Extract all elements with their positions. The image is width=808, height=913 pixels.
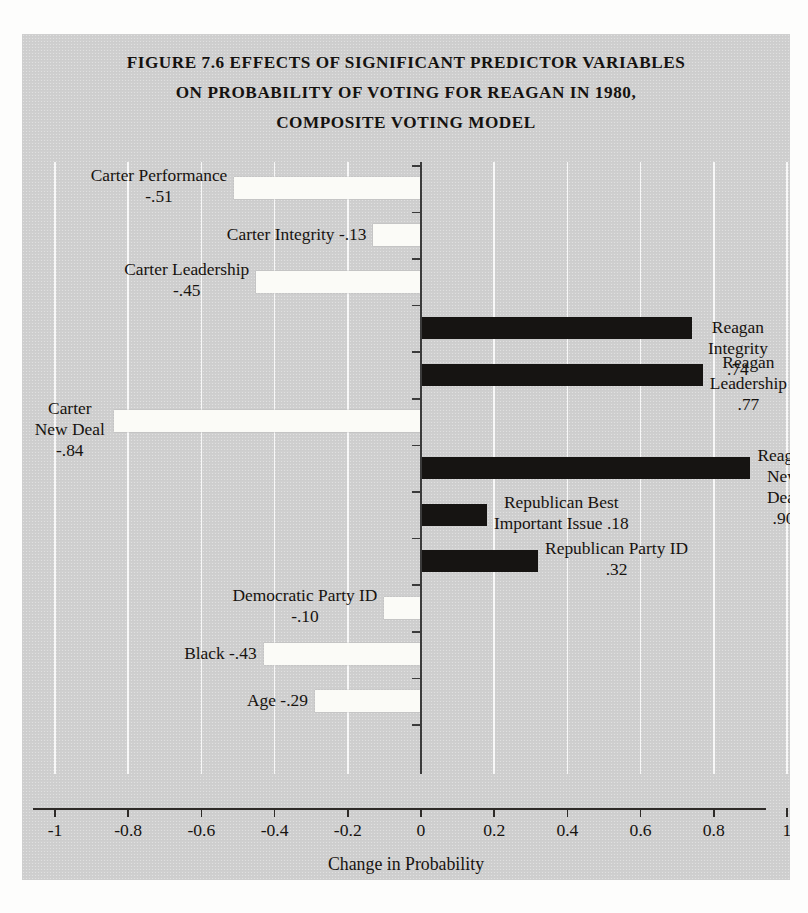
- bar-black[interactable]: [264, 643, 421, 665]
- x-tick-label-4: -0.2: [318, 820, 378, 841]
- x-tick-label-8: 0.6: [611, 820, 671, 841]
- x-tick-1: [127, 808, 129, 817]
- bar-label-black: Black -.43: [184, 643, 256, 664]
- bar-label-age: Age -.29: [247, 690, 308, 711]
- x-tick-4: [347, 808, 349, 817]
- zero-axis-line: [420, 162, 422, 774]
- x-tick-label-9: 0.8: [684, 820, 744, 841]
- bar-carter-leadership[interactable]: [256, 271, 421, 293]
- x-tick-8: [640, 808, 642, 817]
- x-tick-label-7: 0.4: [537, 820, 597, 841]
- gridline-4: [347, 162, 349, 774]
- x-tick-0: [54, 808, 56, 817]
- category-tick-2: [412, 258, 421, 260]
- bar-label-republican-best-important-issue: Republican Best Important Issue .18: [494, 492, 629, 534]
- gridline-2: [201, 162, 203, 774]
- bar-label-reagan-leadership: Reagan Leadership .77: [710, 352, 787, 415]
- bar-republican-party-id[interactable]: [421, 550, 538, 572]
- category-tick-12: [412, 724, 421, 726]
- bar-carter-performance[interactable]: [234, 177, 421, 199]
- figure-title-line-3: COMPOSITE VOTING MODEL: [22, 108, 790, 138]
- bar-reagan-leadership[interactable]: [421, 364, 703, 386]
- x-tick-label-3: -0.4: [245, 820, 305, 841]
- bar-reagan-integrity[interactable]: [421, 317, 692, 339]
- figure-title-line-2: ON PROBABILITY OF VOTING FOR REAGAN IN 1…: [22, 78, 790, 108]
- x-tick-label-10: 1: [757, 820, 790, 841]
- x-axis-line: [33, 808, 766, 810]
- bar-label-carter-new-deal: Carter New Deal -.84: [33, 398, 107, 461]
- bar-reagan-new-deal[interactable]: [421, 457, 750, 479]
- category-tick-4: [412, 351, 421, 353]
- bar-label-carter-leadership: Carter Leadership -.45: [124, 259, 249, 301]
- x-tick-label-6: 0.2: [464, 820, 524, 841]
- bar-carter-integrity[interactable]: [373, 224, 421, 246]
- category-tick-3: [412, 305, 421, 307]
- x-axis-title: Change in Probability: [22, 854, 790, 875]
- category-tick-0: [412, 165, 421, 167]
- bar-republican-best-important-issue[interactable]: [421, 504, 487, 526]
- figure-panel: FIGURE 7.6 EFFECTS OF SIGNIFICANT PREDIC…: [22, 34, 790, 880]
- category-tick-10: [412, 631, 421, 633]
- figure-page: FIGURE 7.6 EFFECTS OF SIGNIFICANT PREDIC…: [0, 0, 808, 913]
- x-tick-label-5: 0: [391, 820, 451, 841]
- x-tick-7: [567, 808, 569, 817]
- figure-title-line-1: FIGURE 7.6 EFFECTS OF SIGNIFICANT PREDIC…: [22, 48, 790, 78]
- category-tick-8: [412, 538, 421, 540]
- gridline-3: [274, 162, 276, 774]
- category-tick-11: [412, 678, 421, 680]
- category-tick-7: [412, 491, 421, 493]
- bar-label-democratic-party-id: Democratic Party ID -.10: [233, 585, 378, 627]
- category-tick-9: [412, 584, 421, 586]
- category-tick-6: [412, 445, 421, 447]
- gridline-1: [127, 162, 129, 774]
- x-tick-label-0: -1: [25, 820, 85, 841]
- x-tick-2: [201, 808, 203, 817]
- x-tick-9: [713, 808, 715, 817]
- x-tick-6: [493, 808, 495, 817]
- figure-title: FIGURE 7.6 EFFECTS OF SIGNIFICANT PREDIC…: [22, 48, 790, 138]
- bar-label-carter-integrity: Carter Integrity -.13: [227, 224, 367, 245]
- category-tick-1: [412, 212, 421, 214]
- bar-age[interactable]: [315, 690, 421, 712]
- x-tick-3: [274, 808, 276, 817]
- bar-label-reagan-new-deal: Reagan New Deal .90: [757, 445, 790, 529]
- x-tick-label-1: -0.8: [98, 820, 158, 841]
- plot-area: Carter Performance -.51Carter Integrity …: [33, 162, 777, 774]
- gridline-0: [54, 162, 56, 774]
- x-tick-5: [420, 808, 422, 817]
- bar-carter-new-deal[interactable]: [114, 410, 421, 432]
- bar-label-carter-performance: Carter Performance -.51: [91, 165, 228, 207]
- x-tick-label-2: -0.6: [171, 820, 231, 841]
- x-tick-10: [786, 808, 788, 817]
- bar-democratic-party-id[interactable]: [384, 597, 421, 619]
- bar-label-republican-party-id: Republican Party ID .32: [545, 538, 688, 580]
- category-tick-5: [412, 398, 421, 400]
